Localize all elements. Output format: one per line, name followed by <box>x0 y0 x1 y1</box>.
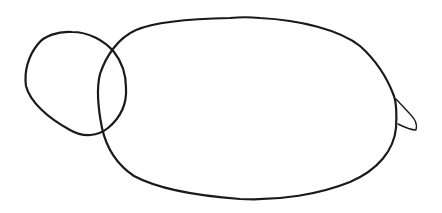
head-circle <box>26 32 127 135</box>
body-oval <box>98 17 397 199</box>
line-drawing <box>0 0 442 213</box>
tail <box>396 99 417 130</box>
